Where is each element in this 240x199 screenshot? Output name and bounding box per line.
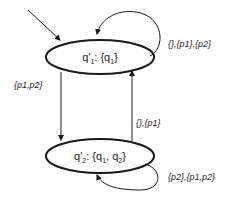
edge-label-q1-loop: {},{p1},{p2}: [168, 39, 211, 49]
state-q2-prime[interactable]: q'2: {q1, q2}: [46, 139, 154, 173]
initial-arrow: [28, 10, 60, 40]
state-q1-prime[interactable]: q'1: {q1}: [46, 40, 154, 74]
edge-label-q1-to-q2: {p1,p2}: [14, 80, 43, 90]
edge-label-q2-loop: {p2},{p1,p2}: [168, 172, 215, 182]
state-diagram: q'1: {q1} q'2: {q1, q2} {},{p1},{p2} {p1…: [0, 0, 240, 199]
edge-label-q2-to-q1: {},{p1}: [136, 118, 161, 128]
